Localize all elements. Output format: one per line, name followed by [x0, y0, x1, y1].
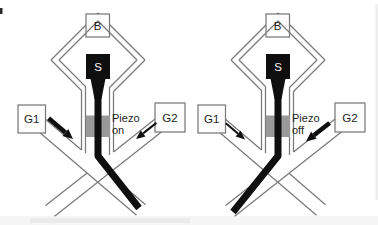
sample-stream-taper: [90, 76, 106, 99]
sample-inlet-label: S: [94, 61, 102, 73]
gate2-label: G2: [162, 112, 177, 124]
gate1-flow-arrow-weak: [226, 123, 245, 139]
piezo-state-label-line1: Piezo: [292, 112, 320, 124]
piezo-state-label-line2: on: [112, 124, 124, 136]
sample-inlet-label: S: [274, 61, 282, 73]
gate1-label: G1: [204, 113, 219, 125]
buffer-port-label: B: [274, 20, 282, 32]
piezo-state-label-line2: off: [292, 124, 305, 136]
gate2-flow-arrow-strong: [306, 123, 330, 142]
figure-canvas: B S G1 G2 Piezo on B S G1: [0, 0, 378, 225]
gate1-label: G1: [24, 113, 39, 125]
scan-smudge-bottom-dark: [30, 218, 190, 223]
buffer-port-label: B: [94, 20, 102, 32]
gate2-label: G2: [342, 112, 357, 124]
piezo-sorter-diagram: B S G1 G2 Piezo on B S G1: [0, 0, 378, 225]
panel-piezo-off: B S G1 G2 Piezo off: [198, 13, 365, 217]
sample-stream-taper: [270, 76, 286, 99]
scan-smudge-bottom: [0, 216, 378, 225]
piezo-state-label-line1: Piezo: [112, 112, 140, 124]
gate1-flow-arrow-strong: [49, 118, 73, 139]
scan-edge-sliver: [376, 4, 378, 200]
scan-speck: [0, 8, 3, 14]
panel-piezo-on: B S G1 G2 Piezo on: [18, 13, 185, 217]
arrow-shaft: [49, 118, 66, 132]
arrow-shaft: [314, 123, 330, 135]
